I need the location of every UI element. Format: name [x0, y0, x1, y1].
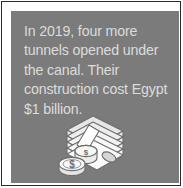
figure-frame: In 2019, four more tunnels opened under … [1, 1, 181, 186]
callout-text: In 2019, four more tunnels opened under … [24, 22, 172, 119]
money-stack-icon: $ $ [53, 107, 133, 177]
svg-text:$: $ [69, 159, 75, 170]
callout-card: In 2019, four more tunnels opened under … [11, 11, 179, 183]
svg-text:$: $ [84, 148, 89, 157]
